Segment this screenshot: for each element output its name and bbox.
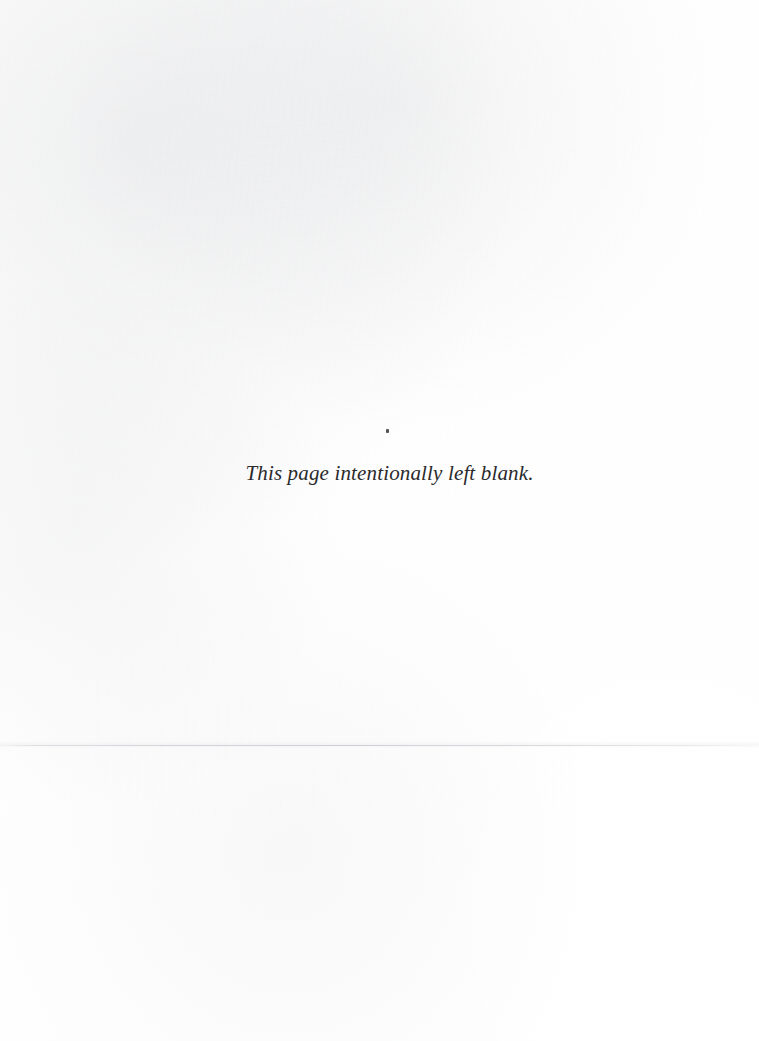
paper-bleed-through-texture-lower xyxy=(0,560,759,990)
ink-speck-artifact xyxy=(386,429,389,433)
blank-page-notice: This page intentionally left blank. xyxy=(0,460,759,486)
paper-bleed-through-texture xyxy=(0,0,759,1041)
scan-seam-shadow xyxy=(0,741,759,748)
scanned-page: This page intentionally left blank. xyxy=(0,0,759,1041)
horizontal-scan-seam xyxy=(0,745,759,746)
blank-page-notice-text: This page intentionally left blank. xyxy=(245,461,533,485)
